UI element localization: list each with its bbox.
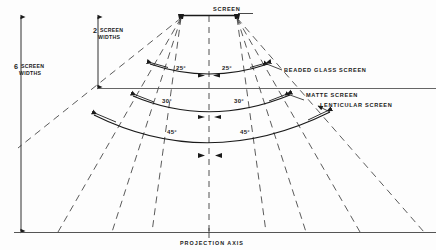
angle-label-beaded-right: 25° [222, 65, 232, 72]
arc-lenticular-screen [94, 106, 330, 158]
two-screen-widths-unit-line1: SCREEN [100, 28, 123, 34]
two-screen-widths-unit-line2: WIDTHS [98, 35, 120, 41]
projection-axis-label: PROJECTION AXIS [180, 240, 244, 246]
screen-label: SCREEN [213, 6, 241, 12]
screen-bar [178, 14, 253, 20]
ray-fan-right [237, 18, 424, 232]
arc-matte-screen [133, 94, 304, 119]
beaded-glass-screen-label: BEADED GLASS SCREEN [284, 67, 367, 73]
ray-fan-left [18, 18, 181, 232]
angle-label-matte-right: 30° [234, 98, 244, 105]
six-screen-widths-number: 6 [14, 63, 18, 71]
six-screen-widths-unit-line1: SCREEN [21, 64, 44, 70]
figure-canvas: SCREEN 6 SCREEN WIDTHS 2 SCREEN WIDTHS 2… [0, 0, 436, 250]
angle-label-lenticular-right: 45° [240, 129, 250, 136]
projection-angle-diagram [0, 0, 436, 250]
lenticular-screen-label: LENTICULAR SCREEN [320, 102, 393, 108]
matte-screen-label: MATTE SCREEN [306, 92, 358, 98]
angle-label-matte-left: 30° [162, 98, 172, 105]
six-screen-widths-unit-line2: WIDTHS [19, 71, 41, 77]
angle-label-lenticular-left: 45° [167, 129, 177, 136]
arc-beaded-glass-screen [150, 63, 282, 78]
angle-label-beaded-left: 25° [176, 65, 186, 72]
two-screen-widths-number: 2 [93, 27, 97, 35]
